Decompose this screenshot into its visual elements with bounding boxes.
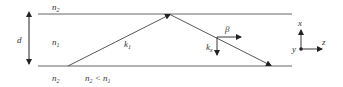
kx-label: kx — [206, 42, 213, 53]
bottom-cladding-label: n2 — [52, 73, 60, 84]
waveguide-diagram: n2 n1 n2 n2 < n1 d k1 β kx x y z — [0, 0, 343, 87]
axis-x-label: x — [297, 18, 302, 28]
wavevector-label: k1 — [124, 39, 131, 50]
ray-reflected — [170, 15, 271, 66]
axis-z-label: z — [321, 37, 326, 47]
beta-label: β — [224, 24, 230, 34]
thickness-label: d — [17, 35, 22, 45]
axis-y-label: y — [291, 44, 296, 54]
axis-y-dot — [299, 47, 303, 51]
index-condition-label: n2 < n1 — [85, 73, 111, 84]
core-label: n1 — [52, 37, 60, 48]
ray-incident — [68, 15, 170, 67]
top-cladding-label: n2 — [52, 2, 60, 13]
